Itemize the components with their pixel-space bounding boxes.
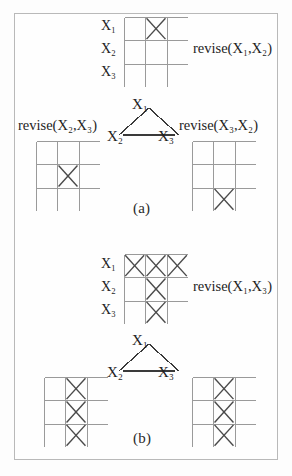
figure-container: X₁ X₂ X₃ revise(X₁,X₂) X₁ X₂ X₃ revise(X… (0, 0, 292, 476)
panel-b-revise-x1-x3-label: revise(X₁,X₃) (193, 278, 272, 295)
panel-b-node-x3: X₃ (158, 364, 174, 381)
panel-b-caption: (b) (133, 430, 151, 447)
panel-a-right-grid (192, 141, 256, 211)
panel-a-top-grid-row3-label: X₃ (101, 64, 116, 80)
panel-a-revise-x1-x2-label: revise(X₁,X₂) (193, 40, 272, 57)
grid-crosses (215, 378, 234, 446)
grid-crosses (215, 189, 234, 210)
panel-a-node-x1: X₁ (132, 96, 148, 113)
panel-a-top-grid-row2-label: X₂ (101, 41, 116, 57)
panel-b-top-grid-row3-label: X₃ (101, 302, 116, 318)
panel-b-top-grid-row2-label: X₂ (101, 279, 116, 295)
panel-a-left-grid (36, 141, 100, 211)
panel-b-node-x1: X₁ (132, 332, 148, 349)
grid-crosses (59, 166, 78, 187)
grid-crosses (67, 378, 86, 446)
panel-b-top-grid-row1-label: X₁ (101, 256, 116, 272)
panel-b-top-grid (124, 254, 188, 324)
panel-a-top-grid-row1-label: X₁ (101, 18, 116, 34)
panel-a-revise-x2-x3-label: revise(X₂,X₃) (18, 117, 97, 134)
panel-a-revise-x3-x2-label: revise(X₃,X₂) (179, 117, 258, 134)
panel-a-caption: (a) (133, 200, 150, 217)
grid-crosses (125, 255, 187, 323)
grid-crosses (147, 18, 166, 39)
panel-b-node-x2: X₂ (107, 364, 123, 381)
panel-a-node-x2: X₂ (107, 128, 123, 145)
panel-b-right-grid (192, 377, 256, 447)
panel-b-left-grid (44, 377, 108, 447)
panel-a-node-x3: X₃ (158, 128, 174, 145)
panel-a-top-grid (124, 17, 188, 87)
